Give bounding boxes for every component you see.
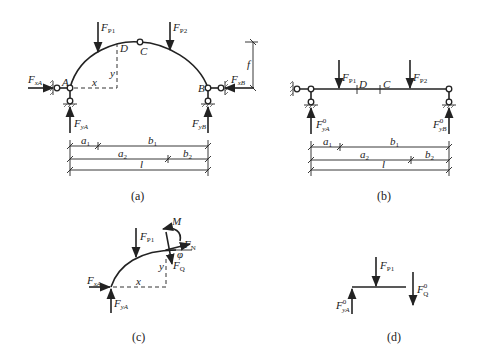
label-D: D	[119, 42, 128, 54]
c-label-FxA: FxA	[86, 274, 102, 288]
b-B-ground-pin	[446, 99, 452, 105]
b-label-C: C	[383, 78, 391, 90]
right-wall-pin	[218, 85, 224, 91]
b-label-D: D	[358, 78, 367, 90]
dim-a2: a2	[118, 147, 128, 161]
panel-b: FP1 FP2 D C F0yA F0yB a1 b1 a2 b2 l (b)	[290, 60, 456, 203]
b-dim-l: l	[382, 158, 385, 170]
label-C: C	[140, 45, 148, 57]
b-A-ground-pin	[308, 99, 314, 105]
label-x: x	[91, 76, 97, 88]
panel-a: FP1 FP2 D C A B y x f FxA FyA FxB FyB a1…	[27, 21, 258, 203]
figure-canvas: FP1 FP2 D C A B y x f FxA FyA FxB FyB a1…	[0, 0, 483, 362]
dim-a1: a1	[81, 134, 91, 148]
label-FyA: FyA	[73, 117, 89, 131]
b-dim-a2: a2	[360, 148, 370, 162]
panel-c: FP1 M FN φ FQ y x FxA FyA (c)	[86, 215, 196, 344]
b-dim-b2: b2	[425, 148, 435, 162]
caption-a: (a)	[131, 189, 144, 203]
c-label-FP1: FP1	[139, 230, 155, 244]
b-dim-b1: b1	[390, 135, 400, 149]
dim-b1: b1	[148, 134, 158, 148]
A-ground-pin	[67, 98, 73, 104]
label-FP2: FP2	[172, 21, 188, 35]
label-FP1: FP1	[100, 21, 116, 35]
b-label-FP1: FP1	[341, 71, 357, 85]
b-hinge-B	[446, 86, 452, 92]
c-label-FQ: FQ	[172, 259, 185, 273]
moment-M-arrow	[163, 228, 180, 241]
b-label-FP2: FP2	[412, 71, 428, 85]
left-wall-pin	[54, 85, 60, 91]
dim-l: l	[140, 158, 143, 170]
c-label-FN: FN	[183, 238, 196, 252]
label-f: f	[247, 58, 252, 70]
d-label-FQ0: F0Q	[416, 282, 428, 298]
b-dim-a1: a1	[323, 135, 333, 149]
B-ground-pin	[205, 98, 211, 104]
b-label-FyB0: F0yB	[432, 117, 447, 133]
label-B: B	[198, 82, 205, 94]
arch-curve	[70, 42, 208, 88]
label-FyB: FyB	[191, 117, 207, 131]
panel-d: FP1 F0Q F0yA (d)	[335, 257, 428, 344]
label-FxB: FxB	[230, 73, 246, 87]
c-label-x: x	[135, 275, 141, 287]
c-label-y: y	[158, 260, 164, 272]
b-left-wall-pin	[294, 86, 300, 92]
dim-b2: b2	[183, 147, 193, 161]
d-label-FP1: FP1	[379, 259, 395, 273]
hinge-C	[137, 39, 143, 45]
label-A: A	[61, 76, 69, 88]
d-label-FyA0: F0yA	[335, 298, 350, 314]
label-FxA: FxA	[27, 73, 43, 87]
b-hinge-A	[308, 86, 314, 92]
caption-d: (d)	[387, 330, 401, 344]
caption-b: (b)	[377, 189, 391, 203]
hinge-B	[205, 85, 211, 91]
b-label-FyA0: F0yA	[315, 117, 330, 133]
label-y: y	[109, 67, 115, 79]
caption-c: (c)	[132, 330, 145, 344]
c-label-M: M	[171, 215, 182, 227]
c-label-FyA: FyA	[113, 297, 129, 311]
